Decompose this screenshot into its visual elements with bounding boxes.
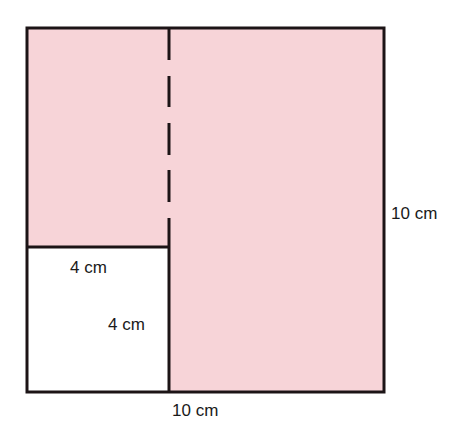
label-cutout-side: 4 cm [108,316,145,333]
diagram-figure: 10 cm 10 cm 4 cm 4 cm [0,0,473,440]
label-right-side: 10 cm [391,205,437,222]
label-bottom-side: 10 cm [172,402,218,419]
label-cutout-top: 4 cm [70,259,107,276]
